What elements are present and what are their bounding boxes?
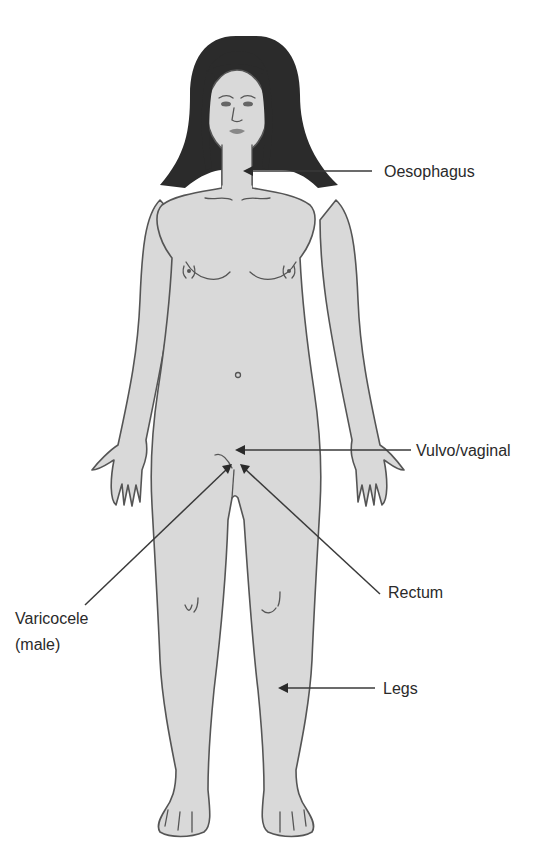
label-varicocele: Varicocele [15,609,89,628]
right-arm [320,200,404,506]
label-legs: Legs [383,679,418,698]
label-oesophagus: Oesophagus [384,162,475,181]
neck [222,145,252,190]
label-varicocele-male: (male) [15,635,60,654]
label-vulvo-vaginal: Vulvo/vaginal [416,441,511,460]
body-diagram [0,0,553,854]
face [207,70,267,154]
label-rectum: Rectum [388,583,443,602]
